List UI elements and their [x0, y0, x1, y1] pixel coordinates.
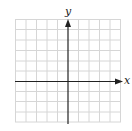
y-axis-arrow-icon: [65, 19, 71, 27]
x-axis-arrow-icon: [115, 79, 123, 85]
y-axis-label: y: [65, 6, 71, 17]
x-axis-label: x: [124, 75, 130, 86]
axes: [15, 24, 118, 124]
coordinate-plane: [0, 0, 132, 131]
